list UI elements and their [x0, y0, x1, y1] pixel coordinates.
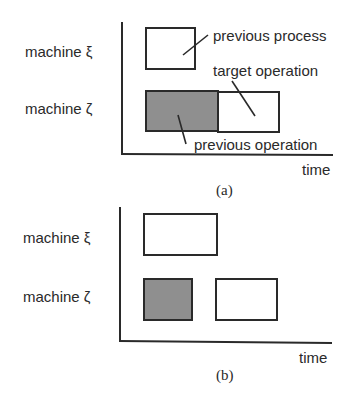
row-label-machine-zeta: machine ζ — [23, 288, 91, 305]
previous-operation-block — [144, 279, 192, 320]
target-operation-block — [216, 279, 277, 320]
annotation-previous-process: previous process — [213, 27, 326, 44]
x-axis-label-time: time — [302, 161, 330, 178]
row-label-machine-xi: machine ξ — [23, 229, 91, 246]
annotation-target-operation: target operation — [213, 62, 318, 79]
x-axis — [121, 154, 333, 155]
x-axis-label-time: time — [299, 349, 327, 366]
caption-b: (b) — [216, 367, 234, 384]
panel-b: machine ξ machine ζ time (b) — [23, 207, 332, 384]
caption-a: (a) — [216, 182, 233, 199]
x-axis — [119, 341, 332, 343]
machine-xi-block — [144, 214, 217, 255]
panel-a: machine ξ machine ζ previous process tar… — [25, 22, 333, 199]
row-label-machine-xi: machine ξ — [25, 43, 93, 60]
annotation-previous-operation: previous operation — [194, 136, 317, 153]
gantt-diagram: machine ξ machine ζ previous process tar… — [0, 0, 359, 396]
previous-process-block — [146, 28, 195, 69]
previous-operation-block — [146, 91, 218, 131]
target-operation-block — [218, 92, 279, 132]
row-label-machine-zeta: machine ζ — [25, 100, 93, 117]
